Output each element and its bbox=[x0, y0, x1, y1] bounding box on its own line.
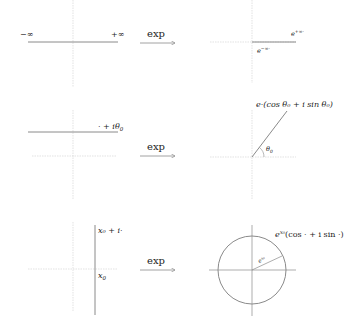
left-plane-2: · + iθ0 bbox=[28, 110, 124, 200]
row-vertical-line: x₀ + i· x0 exp ex₀ ex₀(cos · + i sin ·) bbox=[28, 222, 344, 316]
exp-arrow-3: exp bbox=[140, 255, 175, 270]
circle-label: ex₀(cos · + i sin ·) bbox=[275, 229, 344, 239]
exp-arrow-2: exp bbox=[140, 141, 175, 156]
left-plane-3: x₀ + i· x0 bbox=[28, 222, 123, 315]
right-plane-1: e+∞· e−∞· bbox=[210, 0, 304, 83]
top-label: x₀ + i· bbox=[98, 226, 123, 235]
radius-label: ex₀ bbox=[257, 255, 266, 264]
e-minus-inf-label: e−∞· bbox=[257, 46, 270, 55]
left-plane-1: −∞ +∞ bbox=[20, 0, 124, 87]
row-horizontal-line: · + iθ0 exp θ0 e·(cos θ₀ + i sin θ₀) bbox=[28, 100, 333, 200]
exp-label: exp bbox=[147, 141, 165, 152]
exp-mapping-diagram: −∞ +∞ exp e+∞· e−∞· · + iθ0 bbox=[0, 0, 363, 333]
neg-inf-label: −∞ bbox=[20, 30, 33, 39]
angle-label: θ0 bbox=[266, 145, 273, 154]
pos-inf-label: +∞ bbox=[111, 30, 124, 39]
ray-label: e·(cos θ₀ + i sin θ₀) bbox=[256, 100, 333, 109]
exp-arrow-1: exp bbox=[140, 28, 175, 43]
x0-label: x0 bbox=[98, 271, 107, 281]
row-real-line: −∞ +∞ exp e+∞· e−∞· bbox=[20, 0, 304, 87]
right-plane-2: θ0 e·(cos θ₀ + i sin θ₀) bbox=[210, 100, 333, 200]
exp-label: exp bbox=[147, 28, 165, 39]
angle-arc bbox=[259, 147, 264, 157]
line-label: · + iθ0 bbox=[98, 122, 124, 132]
e-plus-inf-label: e+∞· bbox=[291, 29, 304, 38]
exp-label: exp bbox=[147, 255, 165, 266]
right-plane-3: ex₀ ex₀(cos · + i sin ·) bbox=[209, 225, 344, 316]
